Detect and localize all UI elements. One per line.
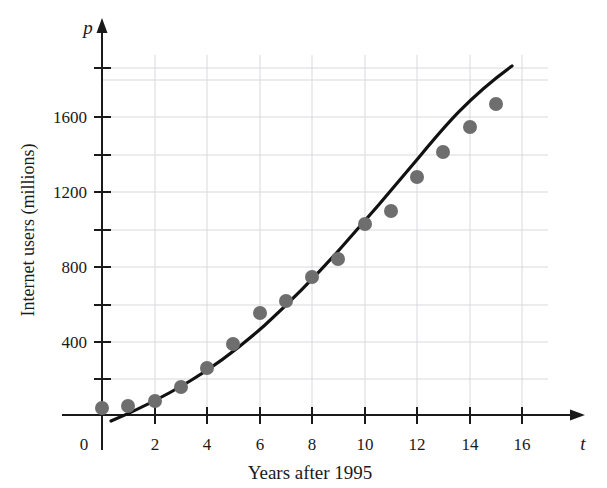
y-axis-arrow: [97, 18, 108, 33]
data-point: [148, 394, 162, 408]
y-tick-label: 1200: [53, 183, 87, 202]
x-tick-labels: 0 2 4 6 8 10 12 14 16: [80, 435, 531, 454]
data-point: [95, 401, 109, 415]
y-tick-label: 1600: [53, 108, 87, 127]
vertical-gridlines: [155, 55, 522, 415]
y-axis-symbol: p: [81, 17, 93, 38]
x-tick-label: 10: [357, 435, 374, 454]
data-point: [253, 306, 267, 320]
data-point: [121, 399, 135, 413]
data-point: [436, 145, 450, 159]
x-axis-symbol: t: [580, 433, 586, 454]
data-point: [226, 337, 240, 351]
y-tick-label: 800: [62, 258, 88, 277]
data-point: [200, 361, 214, 375]
y-axis-title: Internet users (millions): [18, 144, 39, 317]
x-tick-label: 6: [256, 435, 265, 454]
horizontal-gridlines: [102, 68, 548, 379]
data-point: [279, 294, 293, 308]
data-point: [305, 270, 319, 284]
x-axis-arrow: [570, 410, 585, 421]
scatter-plot: 400 800 1200 1600 0 2 4 6 8 10 12 14 16 …: [0, 0, 607, 488]
y-tick-labels: 400 800 1200 1600: [53, 108, 87, 352]
x-tick-label: 14: [462, 435, 480, 454]
y-tick-label: 400: [62, 333, 88, 352]
figure-container: 400 800 1200 1600 0 2 4 6 8 10 12 14 16 …: [0, 0, 607, 488]
x-tick-label: 16: [514, 435, 531, 454]
x-tick-label: 12: [409, 435, 426, 454]
data-point: [331, 252, 345, 266]
x-tick-label: 4: [203, 435, 212, 454]
data-point: [410, 170, 424, 184]
x-axis-caption: Years after 1995: [248, 462, 373, 483]
x-tick-label: 0: [80, 435, 89, 454]
data-point: [463, 120, 477, 134]
x-tick-label: 8: [308, 435, 317, 454]
data-point: [489, 97, 503, 111]
x-tick-label: 2: [151, 435, 160, 454]
x-axis: [62, 410, 585, 421]
data-points: [95, 97, 503, 415]
data-point: [358, 217, 372, 231]
data-point: [174, 380, 188, 394]
data-point: [384, 204, 398, 218]
